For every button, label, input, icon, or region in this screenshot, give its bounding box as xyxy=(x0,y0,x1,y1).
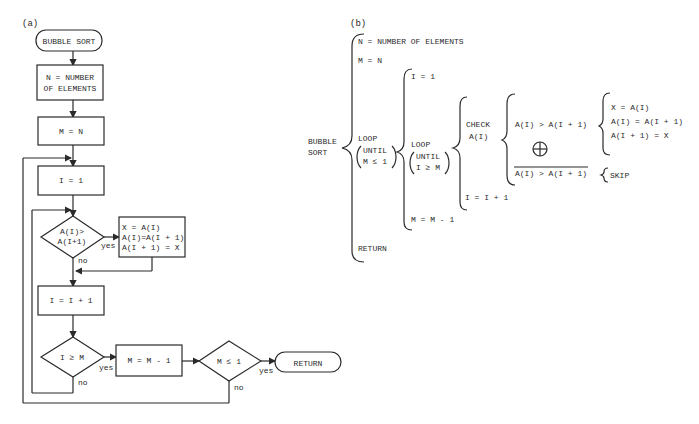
l2-until: UNTIL xyxy=(416,152,440,161)
l3-check: CHECK xyxy=(466,120,490,129)
l4-notcond: A(I) > A(I + 1) xyxy=(515,169,587,178)
process-n-line2: OF ELEMENTS xyxy=(44,84,97,93)
l1-n: N = NUMBER OF ELEMENTS xyxy=(358,37,464,46)
l4-cond: A(I) > A(I + 1) xyxy=(515,120,587,129)
l2-i: I = 1 xyxy=(411,72,435,81)
flowchart-panel-a: (a) BUBBLE SORT N = NUMBER OF ELEMENTS M… xyxy=(22,19,341,403)
swap-line1: X = A(I) xyxy=(122,223,160,232)
no-label: no xyxy=(234,383,244,392)
decision-i-label: I ≥ M xyxy=(60,353,84,362)
yes-label: yes xyxy=(99,363,114,372)
l5-swap2: A(I) = A(I + 1) xyxy=(611,117,683,126)
panel-a-label: (a) xyxy=(22,19,38,29)
process-m-label: M = N xyxy=(59,127,83,136)
panel-b-label: (b) xyxy=(350,19,366,29)
process-n-line1: N = NUMBER xyxy=(46,73,94,82)
no-label: no xyxy=(78,378,88,387)
decision-m-label: M ≤ 1 xyxy=(217,357,241,366)
l5-swap1: X = A(I) xyxy=(611,103,649,112)
brace-level-2 xyxy=(397,69,412,230)
l3-check-arg: A(I) xyxy=(469,132,488,141)
bubble-sort-diagram: (a) BUBBLE SORT N = NUMBER OF ELEMENTS M… xyxy=(0,0,699,424)
swap-line2: A(I)=A(I + 1) xyxy=(122,233,184,242)
l5-skip: SKIP xyxy=(610,171,629,180)
root-line2: SORT xyxy=(308,148,327,157)
l5-swap3: A(I + 1) = X xyxy=(611,131,669,140)
process-n xyxy=(37,65,103,100)
increment-label: I = I + 1 xyxy=(49,296,92,305)
l1-loop: LOOP xyxy=(358,134,377,143)
l1-until: UNTIL xyxy=(363,146,387,155)
decrement-label: M = M - 1 xyxy=(127,356,170,365)
brace-level-1 xyxy=(342,34,364,262)
l1-cond: M ≤ 1 xyxy=(363,157,387,166)
yes-label: yes xyxy=(101,241,116,250)
brace-level-5 xyxy=(599,93,610,155)
swap-line3: A(I + 1) = X xyxy=(122,243,180,252)
root-line1: BUBBLE xyxy=(308,137,337,146)
no-label: no xyxy=(78,256,88,265)
decision-swap-line2: A(I+1) xyxy=(58,237,87,246)
l2-loop: LOOP xyxy=(411,140,430,149)
decision-swap-line1: A(I)> xyxy=(60,227,84,236)
l2-dec: M = M - 1 xyxy=(411,215,454,224)
start-label: BUBBLE SORT xyxy=(43,37,96,46)
warnier-orr-panel-b: (b) BUBBLE SORT N = NUMBER OF ELEMENTS M… xyxy=(308,19,683,262)
yes-label: yes xyxy=(259,366,274,375)
l3-inc: I = I + 1 xyxy=(465,193,508,202)
l1-m: M = N xyxy=(358,56,382,65)
return-label: RETURN xyxy=(294,359,323,368)
l1-return: RETURN xyxy=(358,244,387,253)
brace-level-4 xyxy=(502,94,515,185)
process-i-label: I = 1 xyxy=(59,176,83,185)
brace-skip xyxy=(601,168,608,182)
l2-cond: I ≥ M xyxy=(416,163,440,172)
